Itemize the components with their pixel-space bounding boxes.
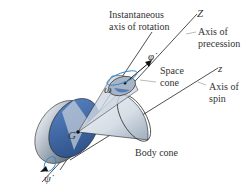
spin-leader-line: [198, 82, 206, 85]
center-of-mass-dot: [76, 130, 80, 134]
axis-spin-label-line2: spin: [209, 94, 226, 104]
phi-dot-label: φ̇: [148, 51, 154, 61]
G-label: G: [68, 130, 76, 140]
space-cone-leader-line: [140, 80, 156, 82]
psi-dot-label: ψ̇: [44, 173, 51, 183]
instantaneous-axis-label-line1: Instantaneous: [109, 10, 164, 20]
precession-leader-line: [186, 32, 196, 34]
body-cone-label: Body cone: [135, 148, 178, 158]
axis-precession-label-line2: precession: [198, 39, 240, 49]
Z-axis-label: Z: [197, 8, 203, 18]
z-axis-label: z: [218, 63, 222, 73]
space-cone-label-line2: cone: [160, 78, 179, 88]
axis-precession-label-line1: Axis of: [198, 27, 228, 37]
space-cone-label-line1: Space: [160, 66, 184, 76]
instantaneous-axis-label-line2: axis of rotation: [109, 22, 170, 32]
axis-spin-label-line1: Axis of: [209, 82, 239, 92]
omega-label: ω: [104, 84, 112, 94]
